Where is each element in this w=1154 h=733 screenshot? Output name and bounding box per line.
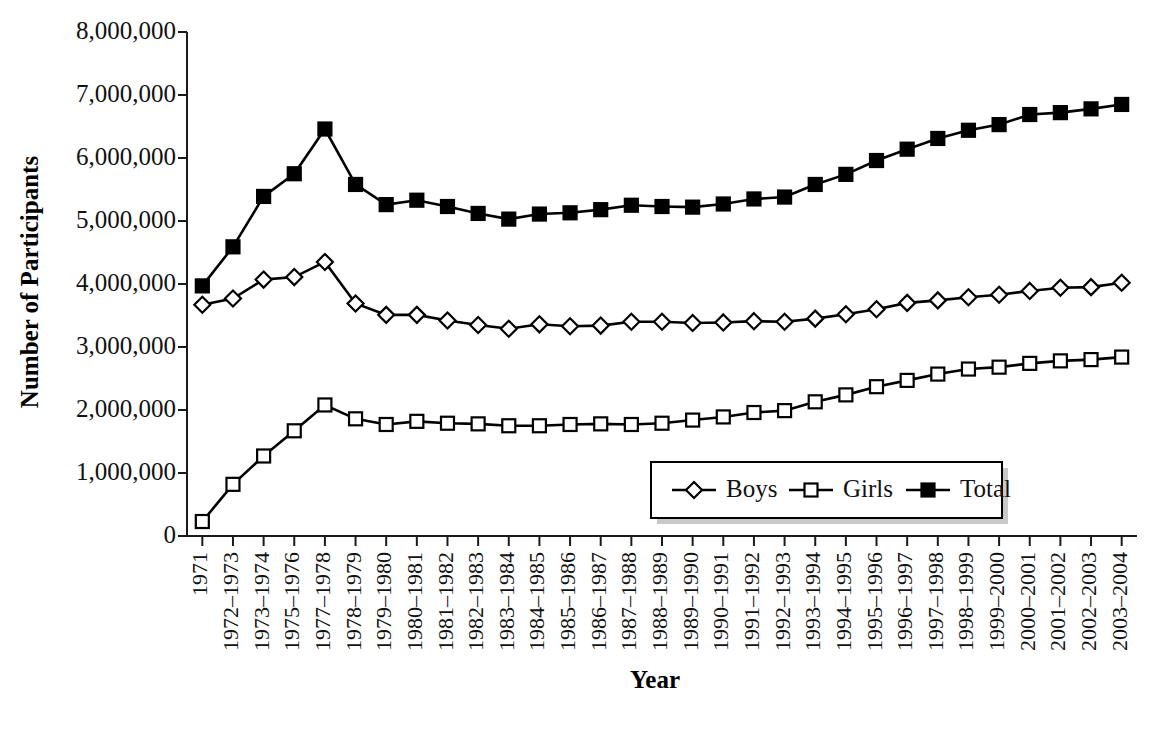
x-tick-label: 1982–1983 <box>463 552 488 651</box>
legend-label-total: Total <box>960 475 1011 502</box>
data-point-square <box>717 410 730 423</box>
data-point-square <box>288 424 301 437</box>
data-point-square-filled <box>962 124 975 137</box>
data-point-square <box>1054 354 1067 367</box>
line-chart: Number of Participants Year 01,000,0002,… <box>0 0 1154 733</box>
data-point-square-filled <box>809 178 822 191</box>
data-point-square <box>809 395 822 408</box>
x-tick-label: 2003–2004 <box>1107 552 1132 651</box>
x-tick-label: 1973–1974 <box>249 552 274 651</box>
data-point-square-filled <box>625 199 638 212</box>
data-point-square <box>931 368 944 381</box>
data-point-square-filled <box>839 168 852 181</box>
x-tick-label: 2002–2003 <box>1076 552 1101 651</box>
data-point-square-filled <box>1085 102 1098 115</box>
legend-marker-total <box>922 484 935 497</box>
x-tick-label: 2001–2002 <box>1045 552 1070 651</box>
chart-figure: Number of Participants Year 01,000,0002,… <box>0 0 1154 733</box>
data-point-square-filled <box>931 132 944 145</box>
data-point-square-filled <box>533 208 546 221</box>
y-tick-label: 1,000,000 <box>76 458 176 485</box>
data-point-square <box>778 404 791 417</box>
data-point-square <box>870 380 883 393</box>
data-point-square-filled <box>993 118 1006 131</box>
legend-label-boys: Boys <box>726 475 777 502</box>
y-tick-label: 7,000,000 <box>76 80 176 107</box>
data-point-square <box>1023 357 1036 370</box>
data-point-square <box>410 415 423 428</box>
y-tick-label: 6,000,000 <box>76 143 176 170</box>
legend-marker-girls <box>805 484 818 497</box>
x-tick-label: 1992–1993 <box>770 552 795 651</box>
x-tick-label: 1999–2000 <box>984 552 1009 651</box>
data-point-square <box>901 374 914 387</box>
data-point-square-filled <box>1054 106 1067 119</box>
y-tick-label: 5,000,000 <box>76 206 176 233</box>
data-point-square-filled <box>349 178 362 191</box>
x-tick-label: 1995–1996 <box>862 552 887 651</box>
y-tick-label: 4,000,000 <box>76 269 176 296</box>
y-axis-tick-labels: 01,000,0002,000,0003,000,0004,000,0005,0… <box>76 17 176 548</box>
data-point-square <box>962 363 975 376</box>
data-point-square <box>533 419 546 432</box>
x-tick-label: 1991–1992 <box>739 552 764 651</box>
data-point-square <box>1085 353 1098 366</box>
data-point-square <box>441 417 454 430</box>
data-point-square-filled <box>870 154 883 167</box>
y-tick-label: 8,000,000 <box>76 17 176 44</box>
legend: BoysGirlsTotal <box>651 462 1011 524</box>
data-point-square-filled <box>441 200 454 213</box>
x-tick-label: 1986–1987 <box>586 552 611 651</box>
data-point-square-filled <box>380 198 393 211</box>
data-point-square <box>380 418 393 431</box>
data-point-square-filled <box>1023 108 1036 121</box>
x-tick-label: 1971 <box>187 552 212 596</box>
x-tick-label: 1987–1988 <box>616 552 641 651</box>
data-point-square-filled <box>410 194 423 207</box>
x-tick-label: 1993–1994 <box>800 552 825 651</box>
x-tick-label: 1988–1989 <box>647 552 672 651</box>
data-point-square-filled <box>594 203 607 216</box>
y-tick-label: 2,000,000 <box>76 395 176 422</box>
x-tick-label: 1981–1982 <box>433 552 458 651</box>
data-point-square-filled <box>1115 98 1128 111</box>
x-tick-label: 1994–1995 <box>831 552 856 651</box>
data-point-square-filled <box>656 200 669 213</box>
data-point-square <box>502 419 515 432</box>
data-point-square <box>564 418 577 431</box>
x-tick-label: 1990–1991 <box>708 552 733 651</box>
data-point-square-filled <box>288 167 301 180</box>
y-tick-label: 0 <box>164 521 177 548</box>
x-tick-label: 1983–1984 <box>494 552 519 651</box>
data-point-square <box>594 417 607 430</box>
x-tick-label: 1979–1980 <box>371 552 396 651</box>
data-point-square-filled <box>778 191 791 204</box>
legend-label-girls: Girls <box>843 475 893 502</box>
x-tick-label: 1984–1985 <box>524 552 549 651</box>
x-tick-label: 1978–1979 <box>341 552 366 651</box>
y-tick-label: 3,000,000 <box>76 332 176 359</box>
data-point-square <box>257 449 270 462</box>
data-point-square-filled <box>318 123 331 136</box>
data-point-square <box>318 398 331 411</box>
x-tick-label: 1980–1981 <box>402 552 427 651</box>
data-point-square <box>472 417 485 430</box>
data-point-square-filled <box>226 240 239 253</box>
data-point-square <box>1115 351 1128 364</box>
data-point-square-filled <box>901 143 914 156</box>
x-axis-tick-labels: 19711972–19731973–19741975–19761977–1978… <box>187 552 1131 651</box>
data-point-square-filled <box>502 213 515 226</box>
x-tick-label: 1985–1986 <box>555 552 580 651</box>
x-tick-label: 1972–1973 <box>218 552 243 651</box>
data-point-square-filled <box>747 192 760 205</box>
x-tick-label: 1977–1978 <box>310 552 335 651</box>
x-tick-label: 1997–1998 <box>923 552 948 651</box>
y-axis-title: Number of Participants <box>16 156 43 409</box>
data-point-square <box>839 388 852 401</box>
data-point-square-filled <box>196 279 209 292</box>
data-point-square <box>196 515 209 528</box>
data-point-square-filled <box>472 207 485 220</box>
data-point-square <box>747 406 760 419</box>
x-tick-label: 1998–1999 <box>953 552 978 651</box>
data-point-square <box>625 418 638 431</box>
